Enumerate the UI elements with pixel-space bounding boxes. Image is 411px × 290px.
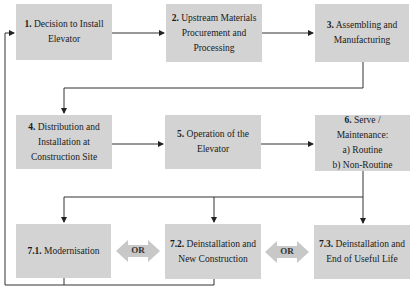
step-text: Upstream Materials xyxy=(181,13,256,23)
step-4-distribution-installation: 4. Distribution and Installation at Cons… xyxy=(16,115,112,169)
step-text: b) Non-Routine xyxy=(333,158,393,173)
step-5-operation: 5. Operation of the Elevator xyxy=(165,115,261,169)
step-number: 4. xyxy=(28,122,35,132)
step-text: a) Routine xyxy=(343,143,383,158)
step-text: New Construction xyxy=(178,252,247,267)
step-number: 5. xyxy=(177,129,184,139)
step-text: Elevator xyxy=(197,142,229,157)
step-text: Assembling and xyxy=(336,20,397,30)
step-7-3-deinstallation-end-of-life: 7.3. Deinstallation and End of Useful Li… xyxy=(314,225,410,279)
step-text: Processing xyxy=(193,41,234,56)
step-2-upstream-materials: 2. Upstream Materials Procurement and Pr… xyxy=(166,4,262,62)
or-label-1: OR xyxy=(126,245,150,255)
step-number: 1. xyxy=(24,19,31,29)
step-7-2-deinstallation-new-construction: 7.2. Deinstallation and New Construction xyxy=(165,224,261,279)
step-text: Procurement and xyxy=(182,26,247,41)
step-text: Deinstallation and xyxy=(187,239,256,249)
step-7-1-modernisation: 7.1. Modernisation xyxy=(16,224,111,278)
step-number: 3. xyxy=(327,20,334,30)
arrow-3-to-4 xyxy=(64,62,363,113)
step-number: 7.2. xyxy=(170,239,184,249)
step-6-service-maintenance: 6. Serve / Maintenance: a) Routine b) No… xyxy=(315,115,410,171)
step-number: 7.1. xyxy=(27,246,41,256)
step-text: Construction Site xyxy=(31,150,97,165)
step-number: 2. xyxy=(172,13,179,23)
step-text: Modernisation xyxy=(44,246,99,256)
step-text: Elevator xyxy=(48,32,80,47)
step-text: Installation at xyxy=(38,135,90,150)
step-text: Distribution and xyxy=(38,122,100,132)
or-label-2: OR xyxy=(275,246,299,256)
step-number: 7.3. xyxy=(319,239,333,249)
step-1-decision-to-install: 1. Decision to Install Elevator xyxy=(16,4,112,60)
step-text: Deinstallation and xyxy=(336,239,405,249)
step-text: End of Useful Life xyxy=(326,252,398,267)
step-3-assembling: 3. Assembling and Manufacturing xyxy=(315,4,409,62)
step-text: Manufacturing xyxy=(334,33,390,48)
step-text: Decision to Install xyxy=(34,19,104,29)
step-number: 6. xyxy=(344,115,351,125)
step-text: Operation of the xyxy=(187,129,249,139)
